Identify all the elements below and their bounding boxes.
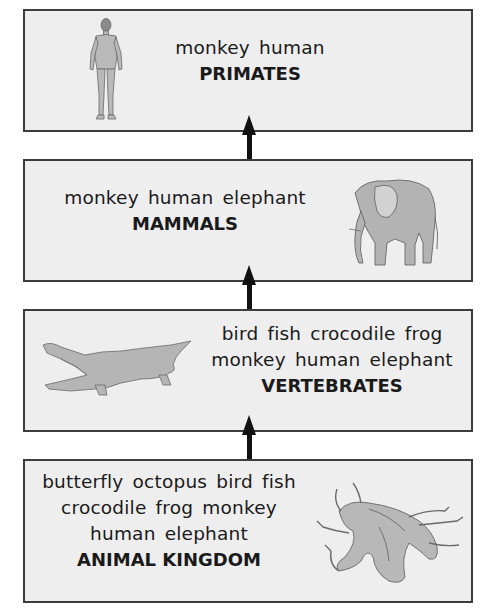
human-figure-icon <box>85 17 127 125</box>
primates-title: PRIMATES <box>155 61 345 87</box>
animal-kingdom-box: butterfly octopus bird fish crocodile fr… <box>23 459 473 603</box>
vertebrates-box: bird fish crocodile frog monkey human el… <box>23 309 473 432</box>
animal-kingdom-text: butterfly octopus bird fish crocodile fr… <box>29 469 309 573</box>
crocodile-icon <box>41 339 193 397</box>
mammals-text: monkey human elephant MAMMALS <box>35 185 335 237</box>
elephant-icon <box>335 173 439 273</box>
vertebrates-title: VERTEBRATES <box>197 373 467 399</box>
arrowhead-icon <box>242 415 256 435</box>
octopus-icon <box>309 481 469 591</box>
arrow-animal-kingdom-to-vertebrates <box>242 415 256 461</box>
primates-members: monkey human <box>155 35 345 61</box>
primates-box: monkey human PRIMATES <box>23 9 473 132</box>
arrow-mammals-to-primates <box>242 115 256 161</box>
animal-kingdom-members-line-3: human elephant <box>29 521 309 547</box>
mammals-title: MAMMALS <box>35 211 335 237</box>
animal-kingdom-members-line-2: crocodile frog monkey <box>29 495 309 521</box>
arrowhead-icon <box>242 115 256 135</box>
primates-text: monkey human PRIMATES <box>155 35 345 87</box>
mammals-members: monkey human elephant <box>35 185 335 211</box>
vertebrates-members-line-2: monkey human elephant <box>197 347 467 373</box>
animal-kingdom-members-line-1: butterfly octopus bird fish <box>29 469 309 495</box>
arrow-vertebrates-to-mammals <box>242 265 256 311</box>
arrowhead-icon <box>242 265 256 285</box>
mammals-box: monkey human elephant MAMMALS <box>23 159 473 282</box>
vertebrates-text: bird fish crocodile frog monkey human el… <box>197 321 467 399</box>
animal-kingdom-title: ANIMAL KINGDOM <box>29 547 309 573</box>
vertebrates-members-line-1: bird fish crocodile frog <box>197 321 467 347</box>
